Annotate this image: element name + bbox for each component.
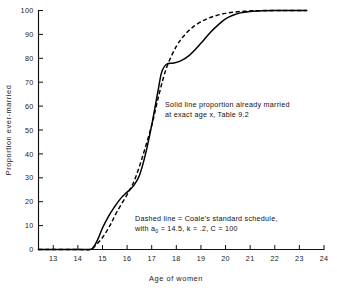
y-axis-title: Proportion ever-married xyxy=(4,85,13,176)
solid-line-annotation: Solid line proportion already married at… xyxy=(165,100,290,119)
x-tick-label: 22 xyxy=(270,254,279,263)
y-tick-label: 80 xyxy=(25,54,34,63)
line-chart: 0102030405060708090100 13141516171819202… xyxy=(0,0,337,288)
x-tick-label: 18 xyxy=(172,254,181,263)
x-tick-label: 19 xyxy=(197,254,206,263)
x-tick-label: 13 xyxy=(49,254,58,263)
y-tick-label: 30 xyxy=(25,173,34,182)
y-axis-ticks xyxy=(39,11,44,250)
x-tick-label: 15 xyxy=(98,254,107,263)
x-axis-title: Age of women xyxy=(149,274,203,283)
y-tick-label: 40 xyxy=(25,150,34,159)
x-tick-label: 20 xyxy=(221,254,230,263)
x-tick-label: 23 xyxy=(295,254,304,263)
y-tick-label: 20 xyxy=(25,197,34,206)
solid-annotation-line-1: Solid line proportion already married xyxy=(165,100,290,109)
x-tick-label: 14 xyxy=(74,254,83,263)
y-tick-label: 60 xyxy=(25,102,34,111)
y-tick-label: 90 xyxy=(25,30,34,39)
x-tick-label: 21 xyxy=(246,254,255,263)
y-tick-label: 50 xyxy=(25,126,34,135)
y-tick-label: 70 xyxy=(25,78,34,87)
y-tick-label: 100 xyxy=(21,6,34,15)
dashed-annotation-line-2: with a0 = 14.5, k = .2, C = 100 xyxy=(134,224,238,234)
dashed-line-annotation: Dashed line = Coale's standard schedule,… xyxy=(134,214,278,234)
figure-container: 0102030405060708090100 13141516171819202… xyxy=(0,0,337,288)
x-axis-tick-labels: 131415161718192021222324 xyxy=(49,254,328,263)
y-axis-tick-labels: 0102030405060708090100 xyxy=(21,6,34,254)
solid-annotation-line-2: at exact age x, Table 9.2 xyxy=(165,110,249,119)
y-tick-label: 10 xyxy=(25,221,34,230)
y-tick-label: 0 xyxy=(29,245,33,254)
x-tick-label: 24 xyxy=(320,254,329,263)
dashed-annotation-line-1: Dashed line = Coale's standard schedule, xyxy=(135,214,278,223)
x-tick-label: 17 xyxy=(147,254,156,263)
x-tick-label: 16 xyxy=(123,254,132,263)
